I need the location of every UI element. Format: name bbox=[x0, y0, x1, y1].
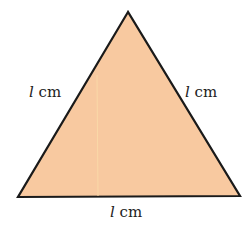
side-variable: l bbox=[185, 83, 190, 101]
side-variable: l bbox=[110, 203, 115, 221]
triangle bbox=[18, 12, 240, 197]
right-side-label: l cm bbox=[185, 83, 217, 101]
left-side-label: l cm bbox=[29, 83, 61, 101]
side-unit: cm bbox=[39, 83, 62, 101]
side-variable: l bbox=[29, 83, 34, 101]
bottom-side-label: l cm bbox=[110, 203, 142, 221]
side-unit: cm bbox=[195, 83, 218, 101]
side-unit: cm bbox=[120, 203, 143, 221]
triangle-diagram bbox=[0, 0, 252, 230]
